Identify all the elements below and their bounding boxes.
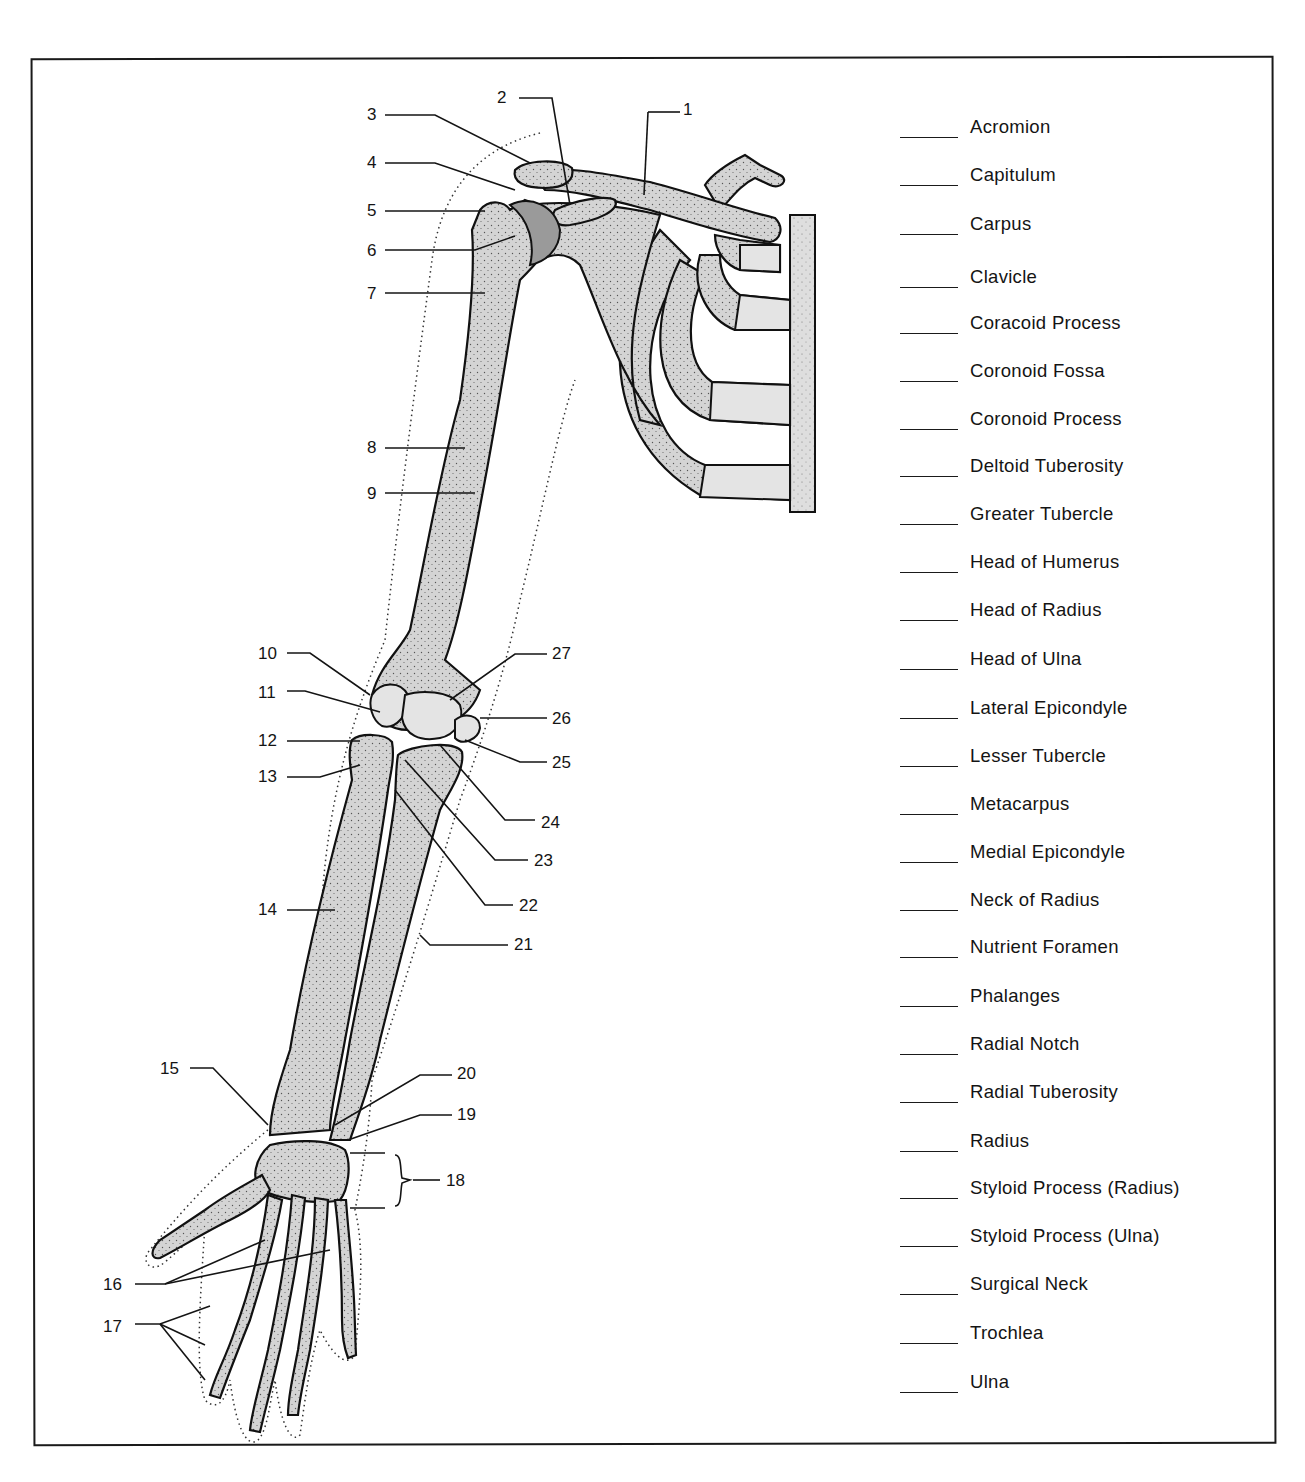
callout-2: 2	[497, 88, 506, 107]
term-label: Capitulum	[970, 164, 1056, 186]
term-row: Radial Tuberosity	[900, 1079, 1118, 1103]
callout-8: 8	[367, 438, 376, 457]
term-row: Lesser Tubercle	[900, 743, 1106, 767]
term-row: Neck of Radius	[900, 887, 1100, 911]
term-row: Lateral Epicondyle	[900, 695, 1128, 719]
term-label: Metacarpus	[970, 793, 1070, 815]
term-label: Greater Tubercle	[970, 503, 1114, 525]
answer-blank[interactable]	[900, 943, 958, 958]
term-label: Radial Tuberosity	[970, 1081, 1118, 1103]
callout-18: 18	[446, 1171, 465, 1190]
answer-blank[interactable]	[900, 1280, 958, 1295]
answer-blank[interactable]	[900, 171, 958, 186]
answer-blank[interactable]	[900, 655, 958, 670]
callout-13: 13	[258, 767, 277, 786]
answer-blank[interactable]	[900, 1329, 958, 1344]
callout-19: 19	[457, 1105, 476, 1124]
answer-blank[interactable]	[900, 273, 958, 288]
term-label: Styloid Process (Radius)	[970, 1177, 1180, 1199]
ribcage	[620, 215, 815, 512]
answer-blank[interactable]	[900, 319, 958, 334]
term-label: Radius	[970, 1130, 1029, 1152]
answer-blank[interactable]	[900, 220, 958, 235]
upper-limb-diagram: 1 2 3 4 5 6 7 8 9 10 11 12 13 14 15 16 1…	[0, 0, 1305, 1482]
term-row: Deltoid Tuberosity	[900, 453, 1123, 477]
callout-11: 11	[258, 683, 276, 702]
callout-7: 7	[367, 284, 376, 303]
forearm	[270, 735, 462, 1140]
term-label: Styloid Process (Ulna)	[970, 1225, 1160, 1247]
callout-23: 23	[534, 851, 553, 870]
answer-blank[interactable]	[900, 1232, 958, 1247]
callout-20: 20	[457, 1064, 476, 1083]
answer-blank[interactable]	[900, 510, 958, 525]
callout-21: 21	[514, 935, 533, 954]
callout-26: 26	[552, 709, 571, 728]
term-row: Head of Humerus	[900, 549, 1119, 573]
term-label: Ulna	[970, 1371, 1009, 1393]
answer-blank[interactable]	[900, 462, 958, 477]
term-row: Head of Ulna	[900, 646, 1082, 670]
answer-blank[interactable]	[900, 896, 958, 911]
answer-blank[interactable]	[900, 1040, 958, 1055]
answer-blank[interactable]	[900, 606, 958, 621]
answer-blank[interactable]	[900, 800, 958, 815]
term-label: Acromion	[970, 116, 1051, 138]
callout-16: 16	[103, 1275, 122, 1294]
term-row: Carpus	[900, 211, 1031, 235]
answer-blank[interactable]	[900, 1378, 958, 1393]
callout-1: 1	[683, 100, 692, 119]
callout-6: 6	[367, 241, 376, 260]
term-row: Radius	[900, 1128, 1029, 1152]
callout-12: 12	[258, 731, 277, 750]
term-label: Medial Epicondyle	[970, 841, 1125, 863]
term-label: Trochlea	[970, 1322, 1044, 1344]
callout-25: 25	[552, 753, 571, 772]
humerus	[370, 200, 560, 742]
term-row: Nutrient Foramen	[900, 934, 1119, 958]
answer-blank[interactable]	[900, 848, 958, 863]
term-row: Metacarpus	[900, 791, 1070, 815]
callout-27: 27	[552, 644, 571, 663]
term-label: Radial Notch	[970, 1033, 1080, 1055]
answer-blank[interactable]	[900, 704, 958, 719]
answer-blank[interactable]	[900, 123, 958, 138]
term-row: Medial Epicondyle	[900, 839, 1125, 863]
callout-10: 10	[258, 644, 277, 663]
hand	[153, 1141, 357, 1432]
term-label: Head of Radius	[970, 599, 1102, 621]
answer-blank[interactable]	[900, 752, 958, 767]
term-row: Styloid Process (Radius)	[900, 1175, 1180, 1199]
callout-3: 3	[367, 105, 376, 124]
term-label: Coracoid Process	[970, 312, 1121, 334]
callout-4: 4	[367, 153, 376, 172]
callout-24: 24	[541, 813, 560, 832]
term-row: Trochlea	[900, 1320, 1044, 1344]
term-row: Ulna	[900, 1369, 1009, 1393]
answer-blank[interactable]	[900, 558, 958, 573]
term-row: Clavicle	[900, 264, 1037, 288]
term-label: Surgical Neck	[970, 1273, 1088, 1295]
term-row: Phalanges	[900, 983, 1060, 1007]
answer-blank[interactable]	[900, 415, 958, 430]
term-label: Deltoid Tuberosity	[970, 455, 1123, 477]
term-row: Head of Radius	[900, 597, 1102, 621]
callout-5: 5	[367, 201, 376, 220]
callout-15: 15	[160, 1059, 179, 1078]
answer-blank[interactable]	[900, 992, 958, 1007]
term-label: Clavicle	[970, 266, 1037, 288]
term-row: Acromion	[900, 114, 1051, 138]
answer-blank[interactable]	[900, 1137, 958, 1152]
callout-17: 17	[103, 1317, 122, 1336]
answer-blank[interactable]	[900, 1184, 958, 1199]
term-row: Coronoid Process	[900, 406, 1122, 430]
answer-blank[interactable]	[900, 1088, 958, 1103]
answer-blank[interactable]	[900, 367, 958, 382]
term-row: Styloid Process (Ulna)	[900, 1223, 1160, 1247]
term-row: Coracoid Process	[900, 310, 1121, 334]
term-label: Carpus	[970, 213, 1031, 235]
term-label: Coronoid Process	[970, 408, 1122, 430]
term-row: Radial Notch	[900, 1031, 1080, 1055]
term-label: Head of Humerus	[970, 551, 1119, 573]
term-label: Neck of Radius	[970, 889, 1100, 911]
